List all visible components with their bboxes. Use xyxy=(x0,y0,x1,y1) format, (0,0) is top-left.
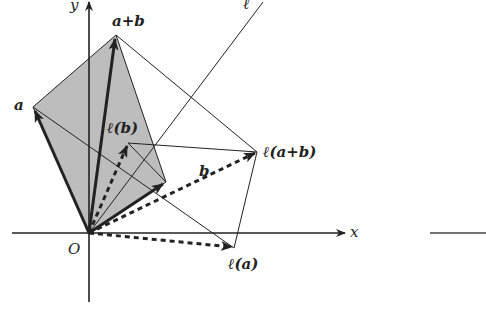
y-axis-label: y xyxy=(70,0,78,13)
x-axis-label: x xyxy=(350,225,358,240)
label-l-a: ℓ(a) xyxy=(228,257,258,272)
origin-label: O xyxy=(68,242,80,257)
label-b: b xyxy=(199,164,210,179)
label-l-a-plus-b: ℓ(a+b) xyxy=(263,145,316,160)
vector-l-a xyxy=(89,233,232,247)
parallelogram xyxy=(33,35,166,233)
line-l-label: ℓ xyxy=(243,0,249,12)
label-a-plus-b: a+b xyxy=(112,14,145,29)
label-l-b: ℓ(b) xyxy=(107,121,138,136)
label-a: a xyxy=(14,98,24,113)
